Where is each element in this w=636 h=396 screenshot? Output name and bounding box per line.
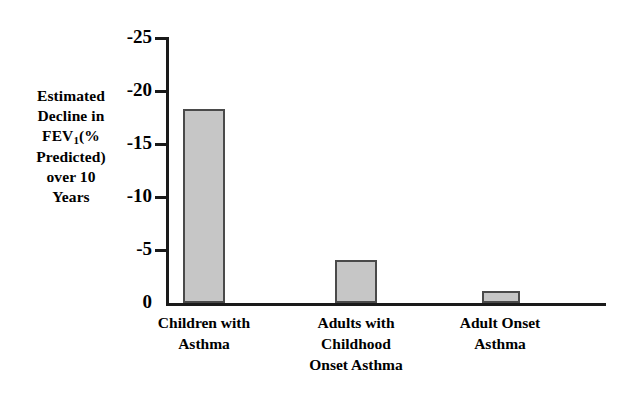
- cat-1-line-1: Children with: [130, 312, 278, 333]
- y-tick-mark-5: [155, 249, 167, 252]
- y-tick-25: -25: [104, 37, 167, 40]
- y-tick-label-10: -10: [106, 186, 152, 205]
- bar-children-with-asthma: [183, 109, 225, 303]
- x-axis-line: [166, 303, 606, 306]
- x-category-label-adults-with-childhood-onset-asthma: Adults with Childhood Onset Asthma: [284, 312, 428, 375]
- y-tick-label-25: -25: [106, 27, 152, 46]
- plot-area: [168, 37, 606, 303]
- bar-chart-figure: Estimated Decline in FEV1(% Predicted) o…: [0, 0, 636, 396]
- y-tick-20: -20: [104, 90, 167, 93]
- y-tick-15: -15: [104, 143, 167, 146]
- y-tick-mark-10: [155, 196, 167, 199]
- cat-2-line-1: Adults with: [284, 312, 428, 333]
- y-tick-0: 0: [104, 303, 167, 306]
- fev-subscript: 1: [73, 134, 79, 146]
- y-tick-label-5: -5: [106, 239, 152, 258]
- bar-adults-with-childhood-onset-asthma: [335, 260, 377, 303]
- percent-text: (%: [79, 127, 100, 144]
- y-axis-title-line-2: Decline in: [8, 106, 134, 126]
- fev-text: FEV: [42, 127, 73, 144]
- y-tick-mark-15: [155, 143, 167, 146]
- cat-2-line-2: Childhood: [284, 333, 428, 354]
- y-tick-mark-25: [155, 37, 167, 40]
- y-axis-title-line-5: over 10: [8, 167, 134, 187]
- y-tick-10: -10: [104, 196, 167, 199]
- y-tick-label-15: -15: [106, 133, 152, 152]
- cat-1-line-2: Asthma: [130, 333, 278, 354]
- cat-3-line-2: Asthma: [428, 333, 572, 354]
- y-tick-mark-20: [155, 90, 167, 93]
- y-tick-label-20: -20: [106, 80, 152, 99]
- cat-2-line-3: Onset Asthma: [284, 354, 428, 375]
- cat-3-line-1: Adult Onset: [428, 312, 572, 333]
- x-category-label-children-with-asthma: Children with Asthma: [130, 312, 278, 354]
- y-tick-label-0: 0: [106, 292, 152, 311]
- y-tick-5: -5: [104, 249, 167, 252]
- x-category-label-adult-onset-asthma: Adult Onset Asthma: [428, 312, 572, 354]
- bar-adult-onset-asthma: [482, 291, 520, 303]
